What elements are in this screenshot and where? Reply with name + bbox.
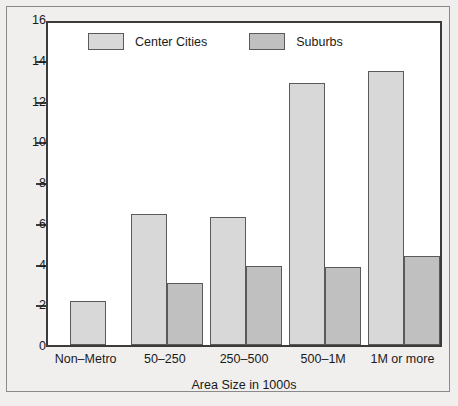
bar-center-cities-1 bbox=[131, 214, 167, 345]
legend-entry-center-cities: Center Cities bbox=[88, 33, 207, 50]
x-axis-tick-label: 250–500 bbox=[220, 352, 269, 366]
bar-suburbs-4 bbox=[404, 256, 440, 345]
bar-suburbs-2 bbox=[246, 266, 282, 345]
legend-label-suburbs: Suburbs bbox=[296, 35, 343, 49]
bar-suburbs-1 bbox=[167, 283, 203, 345]
y-axis-tick-label: 14 bbox=[16, 55, 46, 68]
y-axis-tick-label: 6 bbox=[16, 218, 46, 231]
x-axis-tick-label: 1M or more bbox=[370, 352, 434, 366]
bar-center-cities-4 bbox=[368, 71, 404, 345]
y-axis-tick-label: 2 bbox=[16, 299, 46, 312]
bar-center-cities-2 bbox=[210, 217, 246, 345]
bar-center-cities-3 bbox=[289, 83, 325, 345]
y-axis-tick-label: 12 bbox=[16, 96, 46, 109]
legend-entry-suburbs: Suburbs bbox=[249, 33, 343, 50]
plot-area bbox=[46, 21, 442, 347]
plot-inner bbox=[48, 23, 440, 345]
x-axis-tick-label: 500–1M bbox=[301, 352, 346, 366]
x-axis-tick-label: 50–250 bbox=[144, 352, 186, 366]
legend-swatch-center-cities bbox=[88, 33, 124, 50]
x-axis-title: Area Size in 1000s bbox=[46, 378, 442, 392]
y-axis-tick-label: 10 bbox=[16, 136, 46, 149]
y-axis-tick-label: 16 bbox=[16, 14, 46, 27]
chart-figure: 0246810121416 Center Cities Suburbs Non–… bbox=[0, 0, 458, 406]
x-axis: Non–Metro50–250250–500500–1M1M or more bbox=[46, 352, 442, 372]
bar-center-cities-0 bbox=[70, 301, 106, 345]
y-axis-tick-label: 4 bbox=[16, 259, 46, 272]
y-axis-tick-label: 0 bbox=[16, 340, 46, 353]
x-axis-tick-label: Non–Metro bbox=[55, 352, 117, 366]
chart-legend: Center Cities Suburbs bbox=[88, 33, 343, 50]
bar-suburbs-3 bbox=[325, 267, 361, 345]
legend-label-center-cities: Center Cities bbox=[135, 35, 207, 49]
y-axis: 0246810121416 bbox=[0, 0, 46, 406]
y-axis-tick-label: 8 bbox=[16, 177, 46, 190]
legend-swatch-suburbs bbox=[249, 33, 285, 50]
